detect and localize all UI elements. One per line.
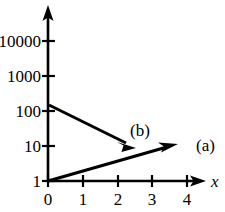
x-tick-label-3: 3 xyxy=(148,190,157,209)
y-axis-group xyxy=(43,5,54,182)
semilog-plot-figure: 10000 1000 100 10 1 0 1 2 3 4 x xyxy=(0,0,225,212)
series-b-arrowhead-icon xyxy=(117,142,136,152)
series-b-label: (b) xyxy=(130,121,150,140)
x-tick-label-4: 4 xyxy=(183,190,192,209)
x-tick-label-2: 2 xyxy=(114,190,123,209)
y-tick-label-10000: 10000 xyxy=(0,32,41,51)
series-a-label: (a) xyxy=(196,136,215,155)
series-a-arrow xyxy=(48,143,178,182)
series-b-line xyxy=(49,105,126,143)
x-axis-group xyxy=(48,176,206,187)
y-tick-label-1: 1 xyxy=(33,172,42,191)
y-tick-label-10: 10 xyxy=(24,137,41,156)
x-tick-label-1: 1 xyxy=(79,190,88,209)
x-axis-name-label: x xyxy=(210,172,219,191)
series-a-line xyxy=(48,147,167,181)
y-tick-label-100: 100 xyxy=(16,102,42,121)
x-tick-label-0: 0 xyxy=(44,190,53,209)
plot-canvas: 10000 1000 100 10 1 0 1 2 3 4 x xyxy=(0,0,225,212)
y-tick-labels: 10000 1000 100 10 1 xyxy=(0,32,41,191)
y-tick-label-1000: 1000 xyxy=(7,67,41,86)
x-tick-labels: 0 1 2 3 4 xyxy=(44,190,192,209)
series-b-arrow xyxy=(49,105,136,152)
